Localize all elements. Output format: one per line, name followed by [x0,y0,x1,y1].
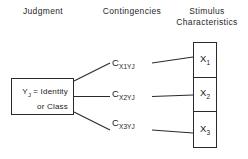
connector-contingency-2-to-stimulus-2 [152,95,193,97]
contingency-3-sub-y-index: J [131,123,134,130]
contingency-2-c: C [112,88,119,99]
judgment-box-line-1: YJ = Identity [12,86,68,101]
judgment-identity-text: = Identity [31,87,68,96]
connector-contingency-3-to-stimulus-3 [152,130,193,133]
contingency-label-1: CX1YJ [112,58,135,72]
stimulus-cell-2: X2 [194,78,216,113]
stimulus-2-index: 2 [206,94,210,101]
stimulus-cell-1-text: X1 [194,53,216,66]
judgment-box: YJ = Identity or Class [11,78,74,115]
contingency-1-sub-y-index: J [131,63,134,70]
stimulus-characteristics-stack: X1 X2 X3 [193,42,217,148]
contingency-2-sub-y-index: J [131,94,134,101]
stimulus-3-index: 3 [206,129,210,136]
stimulus-1-index: 1 [206,59,210,66]
connector-contingency-1-to-stimulus-1 [152,57,193,63]
connector-judgment-to-contingency-1 [74,63,110,81]
stimulus-cell-1: X1 [194,43,216,78]
connector-judgment-to-contingency-3 [74,112,110,130]
stimulus-cell-3: X3 [194,112,216,147]
diagram-canvas: Judgment Contingencies Stimulus Characte… [0,0,248,159]
contingency-3-c: C [112,117,119,128]
judgment-box-text: YJ = Identity or Class [12,86,73,112]
stimulus-cell-2-text: X2 [194,88,216,101]
contingency-label-3: CX3YJ [112,118,135,132]
stimulus-cell-3-text: X3 [194,123,216,136]
contingency-1-c: C [112,57,119,68]
judgment-box-line-2: or Class [12,101,68,112]
contingency-label-2: CX2YJ [112,89,135,103]
